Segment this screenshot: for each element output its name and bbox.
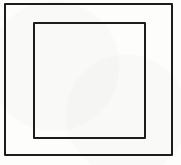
figure-canvas bbox=[0, 0, 181, 165]
inner-square bbox=[33, 22, 146, 139]
